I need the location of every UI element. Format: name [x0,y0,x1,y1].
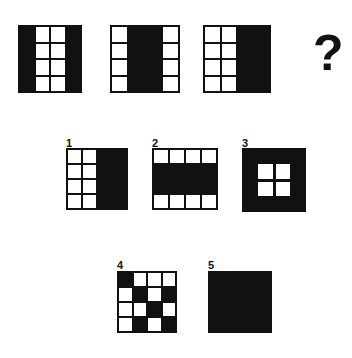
cell [68,165,81,178]
option-3[interactable] [242,148,306,212]
cell [129,27,144,42]
cell [113,150,126,163]
option-3-outer-square [242,148,306,212]
cell [205,44,220,59]
sequence-figure-2-grid [110,25,180,93]
option-5[interactable] [208,271,272,333]
cell [67,27,81,42]
cell [68,150,81,163]
cell [20,27,34,42]
cell [163,318,176,331]
cell [276,164,291,179]
cell [36,77,50,92]
puzzle-canvas: ? 1 2 [0,0,352,358]
cell [154,180,168,193]
cell [112,44,127,59]
cell [51,77,65,92]
cell [205,77,220,92]
sequence-figure-3 [203,25,271,93]
cell [134,303,147,316]
cell [148,288,161,301]
cell [146,77,161,92]
option-1-grid [66,148,128,210]
cell [170,150,184,163]
cell [148,273,161,286]
cell [205,27,220,42]
cell [148,318,161,331]
cell [134,318,147,331]
cell [258,164,273,179]
cell [146,60,161,75]
cell [202,150,216,163]
cell [112,27,127,42]
cell [98,195,111,208]
cell [67,60,81,75]
cell [134,288,147,301]
cell [186,195,200,208]
cell [163,288,176,301]
cell [255,27,270,42]
option-2-grid [152,148,218,210]
cell [258,182,273,197]
cell [20,60,34,75]
option-3-inner-grid [258,164,290,196]
cell [36,27,50,42]
cell [129,60,144,75]
cell [68,195,81,208]
question-mark-placeholder: ? [313,28,344,78]
cell [51,60,65,75]
cell [186,150,200,163]
cell [112,77,127,92]
sequence-figure-1-grid [18,25,82,93]
cell [255,44,270,59]
option-2[interactable] [152,148,218,210]
cell [98,150,111,163]
cell [51,27,65,42]
cell [255,60,270,75]
cell [163,44,178,59]
cell [163,27,178,42]
cell [170,195,184,208]
sequence-figure-2 [110,25,180,93]
cell [119,273,132,286]
sequence-figure-3-grid [203,25,271,93]
cell [146,27,161,42]
cell [36,44,50,59]
cell [163,60,178,75]
cell [255,77,270,92]
cell [170,180,184,193]
cell [222,27,237,42]
cell [154,165,168,178]
cell [51,44,65,59]
cell [98,165,111,178]
cell [202,195,216,208]
cell [238,77,253,92]
cell [222,44,237,59]
cell [20,44,34,59]
cell [83,165,96,178]
option-1[interactable] [66,148,128,210]
cell [113,180,126,193]
option-4[interactable] [117,271,177,333]
cell [68,180,81,193]
cell [119,303,132,316]
cell [113,165,126,178]
option-label-5: 5 [208,260,214,271]
cell [222,77,237,92]
cell [202,165,216,178]
cell [205,60,220,75]
cell [83,150,96,163]
sequence-figure-1 [18,25,82,93]
cell [163,273,176,286]
cell [154,150,168,163]
cell [170,165,184,178]
cell [119,288,132,301]
cell [154,195,168,208]
cell [238,27,253,42]
cell [67,44,81,59]
cell [83,195,96,208]
cell [222,60,237,75]
cell [36,60,50,75]
cell [186,180,200,193]
cell [112,60,127,75]
